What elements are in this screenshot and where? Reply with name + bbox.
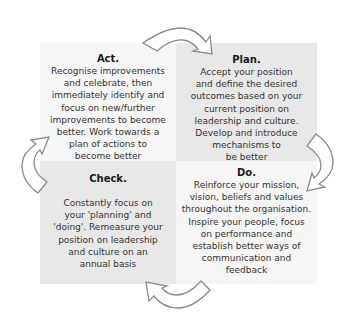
plan-line: Develop and introduce — [176, 127, 317, 139]
do-line: throughout the organisation. — [176, 203, 317, 215]
check-line: and culture on an — [40, 246, 176, 258]
act-line: plan of actions to — [40, 138, 176, 150]
plan-description: Accept your position and define the desi… — [176, 66, 317, 164]
curved-arrow-right-icon — [140, 18, 215, 56]
do-line: establish better ways of — [176, 240, 317, 252]
curved-arrow-up-icon — [14, 135, 54, 195]
curved-arrow-left-icon — [143, 278, 213, 314]
do-line: communication and — [176, 252, 317, 264]
check-line: your 'planning' and — [40, 209, 176, 221]
act-line: Recognise improvements — [40, 65, 176, 77]
act-line: improvements to become — [40, 114, 176, 126]
check-line: annual basis — [40, 258, 176, 270]
act-line: focus on new/further — [40, 102, 176, 114]
do-quadrant: Do. Reinforce your mission, vision, beli… — [176, 161, 317, 284]
plan-line: and define the desired — [176, 78, 317, 90]
plan-line: current position on — [176, 103, 317, 115]
check-line: 'doing'. Remeasure your — [40, 221, 176, 233]
plan-line: Accept your position — [176, 66, 317, 78]
check-title: Check. — [40, 172, 176, 185]
do-line: on performance and — [176, 228, 317, 240]
do-line: Inspire your people, focus — [176, 216, 317, 228]
do-line: vision, beliefs and values — [176, 191, 317, 203]
plan-quadrant: Plan. Accept your position and define th… — [176, 43, 317, 161]
plan-line: outcomes based on your — [176, 90, 317, 102]
act-description: Recognise improvements and celebrate, th… — [40, 65, 176, 163]
plan-line: leadership and culture. — [176, 115, 317, 127]
act-line: immediately identify and — [40, 89, 176, 101]
act-line: and celebrate, then — [40, 77, 176, 89]
do-line: feedback — [176, 264, 317, 276]
curved-arrow-down-icon — [303, 132, 343, 192]
act-line: better. Work towards a — [40, 126, 176, 138]
do-title: Do. — [176, 166, 317, 179]
do-line: Reinforce your mission, — [176, 179, 317, 191]
do-description: Reinforce your mission, vision, beliefs … — [176, 179, 317, 277]
act-quadrant: Act. Recognise improvements and celebrat… — [40, 43, 176, 161]
check-line: position on leadership — [40, 234, 176, 246]
plan-line: mechanisms to — [176, 139, 317, 151]
check-quadrant: Check. Constantly focus on your 'plannin… — [40, 161, 176, 284]
check-description: Constantly focus on your 'planning' and … — [40, 197, 176, 270]
check-line: Constantly focus on — [40, 197, 176, 209]
